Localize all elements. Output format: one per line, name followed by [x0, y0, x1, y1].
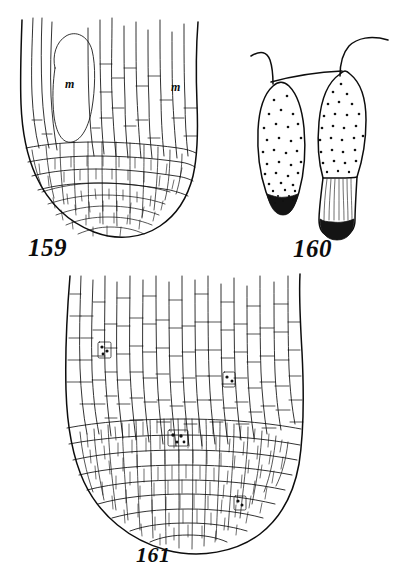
fig160-stalks [251, 38, 388, 84]
figure-160-caption: 160 [293, 235, 332, 262]
fig160-left-cell-dark-tip [267, 194, 298, 215]
fig160-right-cell-neck-striations [324, 178, 352, 220]
label-m-left: m [65, 77, 74, 91]
figure-161: 161 [48, 272, 318, 572]
fig161-outline [66, 274, 304, 554]
figure-161-caption: 161 [136, 542, 171, 567]
fig161-vertical-cell-files [80, 276, 295, 446]
fig161-marked-cell-center [168, 430, 188, 446]
fig160-left-cell-granules [262, 95, 303, 204]
fig161-mid-cell-arcs [67, 419, 301, 542]
fig161-marked-cell-upper-right [223, 372, 235, 387]
fig159-outline [21, 20, 198, 237]
fig160-right-cell-granules [319, 83, 365, 174]
figure-159: m m 159 [8, 8, 218, 270]
label-m-right: m [171, 80, 180, 94]
figure-159-caption: 159 [28, 234, 67, 261]
fig160-right-cell-outline [318, 71, 366, 178]
illustration-plate: m m 159 [0, 0, 394, 581]
fig159-cap-cell-rings [42, 183, 170, 234]
fig159-elongated-cell-walls [32, 18, 188, 158]
figure-160: 160 [243, 14, 393, 262]
